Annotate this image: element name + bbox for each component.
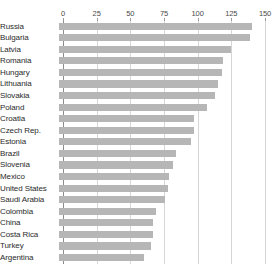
chart-row: Latvia: [0, 44, 277, 55]
category-label: China: [0, 218, 59, 228]
chart-row: Poland: [0, 102, 277, 113]
category-label: Poland: [0, 103, 59, 113]
bar: [59, 127, 194, 134]
bar-chart: 0255075100125150 RussiaBulgariaLatviaRom…: [0, 0, 277, 268]
category-label: Costa Rica: [0, 230, 59, 240]
bar: [59, 219, 153, 226]
bar-cell: [59, 102, 277, 113]
bar-cell: [59, 252, 277, 263]
bar-cell: [59, 171, 277, 182]
bar-cell: [59, 229, 277, 240]
chart-row: Bulgaria: [0, 33, 277, 44]
bar: [59, 80, 218, 87]
bar-cell: [59, 90, 277, 101]
category-label: Slovenia: [0, 160, 59, 170]
bar-cell: [59, 79, 277, 90]
chart-rows: RussiaBulgariaLatviaRomaniaHungaryLithua…: [0, 0, 277, 243]
chart-row: Czech Rep.: [0, 125, 277, 136]
bar: [59, 208, 156, 215]
bar-cell: [59, 44, 277, 55]
bar: [59, 104, 207, 111]
bar-cell: [59, 114, 277, 125]
category-label: Colombia: [0, 207, 59, 217]
chart-row: Brazil: [0, 148, 277, 159]
chart-row: Turkey: [0, 241, 277, 252]
category-label: Hungary: [0, 68, 59, 78]
bar-cell: [59, 137, 277, 148]
bar: [59, 185, 168, 192]
bar-cell: [59, 160, 277, 171]
chart-row: Lithuania: [0, 79, 277, 90]
chart-row: Slovenia: [0, 160, 277, 171]
bar: [59, 69, 222, 76]
bar: [59, 242, 151, 249]
bar-cell: [59, 195, 277, 206]
category-label: Croatia: [0, 114, 59, 124]
category-label: Czech Rep.: [0, 126, 59, 136]
chart-row: Croatia: [0, 114, 277, 125]
category-label: United States: [0, 184, 59, 194]
chart-row: Romania: [0, 56, 277, 67]
bar: [59, 173, 169, 180]
chart-row: Russia: [0, 21, 277, 32]
bar-cell: [59, 33, 277, 44]
chart-row: Costa Rica: [0, 229, 277, 240]
bar: [59, 115, 194, 122]
bar: [59, 34, 250, 41]
category-label: Romania: [0, 56, 59, 66]
category-label: Russia: [0, 22, 59, 32]
category-label: Turkey: [0, 241, 59, 251]
bar: [59, 196, 165, 203]
chart-row: Hungary: [0, 67, 277, 78]
chart-row: Slovakia: [0, 90, 277, 101]
chart-row: Estonia: [0, 137, 277, 148]
bar: [59, 46, 231, 53]
bar: [59, 138, 191, 145]
bar: [59, 150, 176, 157]
bar-cell: [59, 148, 277, 159]
bar: [59, 161, 173, 168]
chart-row: Saudi Arabia: [0, 195, 277, 206]
category-label: Brazil: [0, 149, 59, 159]
category-label: Argentina: [0, 253, 59, 263]
bar-cell: [59, 125, 277, 136]
category-label: Estonia: [0, 137, 59, 147]
bar-cell: [59, 56, 277, 67]
category-label: Lithuania: [0, 79, 59, 89]
category-label: Slovakia: [0, 91, 59, 101]
bar-cell: [59, 183, 277, 194]
chart-row: Colombia: [0, 206, 277, 217]
bar-cell: [59, 67, 277, 78]
bar: [59, 231, 153, 238]
chart-row: United States: [0, 183, 277, 194]
bar: [59, 92, 215, 99]
bar: [59, 23, 252, 30]
bar-cell: [59, 241, 277, 252]
chart-row: China: [0, 218, 277, 229]
bar: [59, 254, 144, 261]
bar-cell: [59, 21, 277, 32]
category-label: Bulgaria: [0, 33, 59, 43]
chart-row: Argentina: [0, 252, 277, 263]
category-label: Saudi Arabia: [0, 195, 59, 205]
category-label: Latvia: [0, 45, 59, 55]
category-label: Mexico: [0, 172, 59, 182]
chart-row: Mexico: [0, 171, 277, 182]
bar: [59, 57, 223, 64]
bar-cell: [59, 206, 277, 217]
bar-cell: [59, 218, 277, 229]
